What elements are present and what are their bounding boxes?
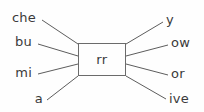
- suffix-connector-ive: [126, 76, 166, 99]
- prefix-connector-mi: [38, 64, 78, 74]
- diagram-canvas: rr chebumia yoworive: [0, 0, 204, 112]
- prefix-label-mi: mi: [15, 66, 32, 79]
- prefix-label-bu: bu: [15, 35, 32, 48]
- stem-label: rr: [96, 52, 108, 67]
- prefix-connector-group: [38, 20, 78, 100]
- suffix-label-y: y: [166, 13, 174, 26]
- suffix-connector-or: [126, 64, 168, 75]
- suffix-connector-y: [126, 22, 163, 44]
- prefix-connector-che: [42, 20, 78, 44]
- suffix-label-ive: ive: [169, 92, 189, 105]
- prefix-connector-bu: [38, 44, 78, 56]
- prefix-label-a: a: [35, 92, 43, 105]
- suffix-label-ow: ow: [171, 36, 190, 49]
- prefix-connector-a: [47, 76, 78, 100]
- suffix-connector-group: [126, 22, 168, 99]
- prefix-label-che: che: [12, 11, 36, 24]
- suffix-connector-ow: [126, 45, 168, 56]
- suffix-label-or: or: [171, 67, 185, 80]
- stem-box: rr: [78, 43, 126, 76]
